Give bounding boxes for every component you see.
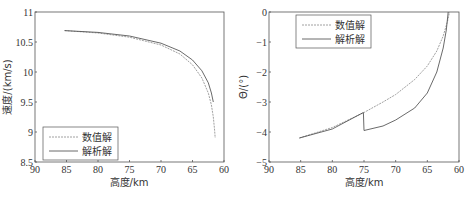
x-tick-label: 75 (359, 164, 369, 175)
y-tick-label: −4 (256, 127, 267, 138)
x-tick-label: 80 (93, 164, 103, 175)
x-tick-label: 65 (188, 164, 198, 175)
x-tick-label: 85 (296, 164, 306, 175)
y-tick-label: 11 (23, 7, 33, 18)
left-y-axis-label: 速度/(km/s) (1, 59, 13, 114)
series-numerical (65, 31, 216, 138)
y-tick-label: −1 (256, 37, 267, 48)
x-tick-label: 70 (391, 164, 401, 175)
y-tick-label: 9.5 (21, 97, 34, 108)
x-tick-label: 80 (327, 164, 337, 175)
y-tick-label: −2 (256, 67, 267, 78)
left-legend: 数值解 解析解 (43, 127, 118, 160)
left-plot: 90858075706560 8.599.51010.511 高度/km 速度/… (1, 7, 229, 189)
y-tick-label: 0 (262, 7, 267, 18)
left-y-ticks: 8.599.51010.511 (16, 7, 38, 168)
right-y-axis-label: Θ/(°) (238, 75, 249, 99)
y-tick-label: −3 (256, 97, 267, 108)
right-legend: 数值解 解析解 (296, 15, 371, 48)
x-tick-label: 75 (125, 164, 135, 175)
x-tick-label: 70 (156, 164, 166, 175)
y-tick-label: 10.5 (16, 37, 34, 48)
left-series (65, 31, 216, 138)
right-x-axis-label: 高度/km (345, 176, 384, 188)
y-tick-label: 9 (28, 127, 33, 138)
legend-label-analytical: 解析解 (82, 145, 112, 157)
x-tick-label: 60 (219, 164, 229, 175)
x-tick-label: 65 (422, 164, 432, 175)
x-tick-label: 85 (62, 164, 72, 175)
y-tick-label: 10 (23, 67, 33, 78)
right-plot: 90858075706560 −5−4−3−2−10 高度/km Θ/(°) 数… (238, 7, 464, 189)
y-tick-label: 8.5 (21, 157, 34, 168)
left-x-axis-label: 高度/km (110, 176, 149, 188)
legend-label-numerical: 数值解 (335, 19, 365, 31)
y-tick-label: −5 (256, 157, 267, 168)
legend-label-numerical: 数值解 (82, 131, 112, 143)
x-tick-label: 60 (454, 164, 464, 175)
legend-label-analytical: 解析解 (335, 33, 365, 45)
chart-canvas: 90858075706560 8.599.51010.511 高度/km 速度/… (0, 0, 466, 203)
series-analytical (65, 31, 214, 102)
